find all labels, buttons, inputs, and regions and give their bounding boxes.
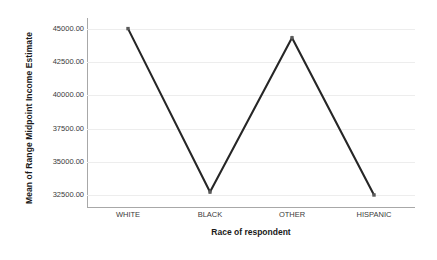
series-polyline xyxy=(128,29,374,195)
y-axis-tick-label: 45000.00 xyxy=(28,25,84,33)
data-point-marker xyxy=(208,190,211,193)
data-point-marker xyxy=(372,193,375,196)
x-axis-tick-label: WHITE xyxy=(83,210,173,220)
data-point-marker xyxy=(126,27,129,30)
series-markers xyxy=(126,27,375,197)
x-axis-tick-label: BLACK xyxy=(165,210,255,220)
x-axis-line xyxy=(87,207,415,208)
y-axis-tick-label: 42500.00 xyxy=(28,58,84,66)
x-axis-title: Race of respondent xyxy=(87,226,415,238)
x-axis-tick-label: HISPANIC xyxy=(329,210,419,220)
y-axis-tick-label: 37500.00 xyxy=(28,125,84,133)
y-axis-tick-labels: 45000.0042500.0040000.0037500.0035000.00… xyxy=(28,0,84,260)
data-point-marker xyxy=(290,36,293,39)
line-chart: Mean of Range Midpoint Income Estimate 4… xyxy=(0,0,437,260)
data-series-line xyxy=(87,18,415,207)
x-axis-tick-label: OTHER xyxy=(247,210,337,220)
plot-area xyxy=(87,18,415,207)
x-axis-tick-labels: WHITEBLACKOTHERHISPANIC xyxy=(87,210,415,224)
y-axis-tick-label: 35000.00 xyxy=(28,158,84,166)
y-axis-tick-label: 40000.00 xyxy=(28,91,84,99)
y-axis-tick-label: 32500.00 xyxy=(28,191,84,199)
